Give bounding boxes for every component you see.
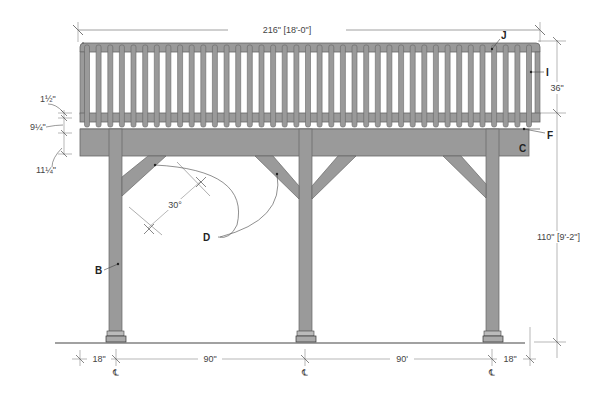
baluster	[410, 45, 415, 127]
baluster	[189, 45, 194, 127]
callout-F: F	[547, 130, 553, 141]
callout-C: C	[519, 143, 526, 154]
span-1-label: 90"	[203, 354, 216, 364]
rail-dim-2: 9¼"	[30, 122, 46, 132]
callout-J: J	[501, 30, 507, 41]
baluster	[212, 45, 217, 127]
footings	[106, 331, 503, 342]
baluster	[329, 45, 334, 127]
baluster	[306, 45, 311, 127]
baluster	[468, 45, 473, 127]
baluster	[85, 45, 90, 127]
callout-B: B	[95, 265, 102, 276]
overall-width-label: 216" [18'-0"]	[263, 25, 312, 35]
baluster	[445, 45, 450, 127]
baluster	[108, 45, 113, 127]
callout-I: I	[546, 67, 549, 78]
baluster	[433, 45, 438, 127]
baluster	[154, 45, 159, 127]
baluster	[527, 45, 532, 127]
baluster	[143, 45, 148, 127]
posts	[109, 129, 499, 336]
baluster	[317, 45, 322, 127]
centerline-left: ℄	[112, 368, 119, 378]
brace-right	[443, 156, 486, 198]
baluster	[492, 45, 497, 127]
baluster	[375, 45, 380, 127]
centerline-right: ℄	[488, 368, 495, 378]
post-height-label: 110" [9'-2"]	[537, 232, 580, 242]
brace-center-right	[312, 156, 356, 199]
rail-dim-3: 11¼"	[36, 165, 56, 175]
baluster	[503, 45, 508, 127]
deck-elevation-drawing: 216" [18'-0"]	[0, 0, 606, 402]
baluster	[340, 45, 345, 127]
overall-width-dimension: 216" [18'-0"]	[73, 22, 545, 42]
right-overhang-label: 18"	[503, 354, 516, 364]
baluster	[131, 45, 136, 127]
post-right	[486, 129, 499, 336]
callout-D: D	[203, 232, 210, 243]
rail-section-dimensions: 1½" 9¼" 11¼"	[30, 94, 72, 175]
baluster	[236, 45, 241, 127]
centerline-center: ℄	[301, 368, 308, 378]
post-center	[299, 129, 312, 336]
baluster	[271, 45, 276, 127]
baluster	[282, 45, 287, 127]
baluster	[515, 45, 520, 127]
baluster	[387, 45, 392, 127]
brace-left	[122, 156, 166, 196]
baluster	[224, 45, 229, 127]
span-2-label: 90'	[396, 354, 408, 364]
baluster	[457, 45, 462, 127]
railing	[80, 43, 540, 129]
baluster	[259, 45, 264, 127]
baluster	[201, 45, 206, 127]
baluster	[352, 45, 357, 127]
baluster	[294, 45, 299, 127]
baluster	[480, 45, 485, 127]
baluster	[247, 45, 252, 127]
baluster	[96, 45, 101, 127]
baluster	[166, 45, 171, 127]
baluster	[119, 45, 124, 127]
rail-dim-1: 1½"	[40, 94, 56, 104]
baluster	[178, 45, 183, 127]
left-overhang-label: 18"	[92, 354, 105, 364]
brace-angle-label: 30°	[168, 200, 182, 210]
baluster	[399, 45, 404, 127]
baluster	[422, 45, 427, 127]
rail-end-right	[535, 52, 540, 114]
post-left	[109, 129, 122, 336]
vertical-dimensions: 36" 110" [9'-2"]	[534, 37, 584, 358]
railing-height-label: 36"	[550, 83, 563, 93]
baluster	[364, 45, 369, 127]
